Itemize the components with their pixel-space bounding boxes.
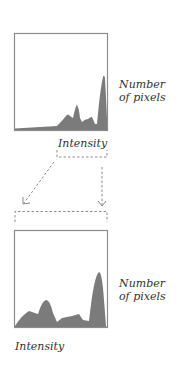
- bottom-ylabel-line2: of pixels: [119, 290, 166, 303]
- top-intensity-label: Intensity: [58, 137, 107, 150]
- selection-bracket: [57, 150, 107, 157]
- bottom-intensity-label: Intensity: [15, 340, 64, 353]
- top-histogram: [15, 34, 108, 131]
- top-ylabel: Number of pixels: [119, 78, 166, 104]
- top-histogram-frame: [15, 34, 108, 131]
- full-range-bracket: [15, 212, 107, 223]
- left-mapping-arrow: [24, 162, 54, 203]
- diagram-graphics: [0, 0, 176, 373]
- bottom-ylabel-line1: Number: [119, 277, 166, 290]
- top-ylabel-line2: of pixels: [119, 91, 166, 104]
- histogram-stretch-diagram: Number of pixels Intensity Number of pix…: [0, 0, 176, 373]
- top-ylabel-line1: Number: [119, 78, 166, 91]
- bottom-ylabel: Number of pixels: [119, 277, 166, 303]
- mapping-arrows: [23, 162, 106, 206]
- bottom-histogram: [15, 231, 108, 328]
